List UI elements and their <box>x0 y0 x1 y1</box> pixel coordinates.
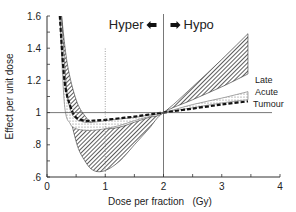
y-axis-label: Effect per unit dose <box>4 53 15 139</box>
band-late <box>62 16 248 172</box>
series-layer <box>60 16 248 172</box>
y-tick-label: 1 <box>35 107 41 118</box>
y-tick-label: .8 <box>33 139 42 150</box>
y-tick-label: .6 <box>33 172 42 183</box>
x-tick-label: 0 <box>44 181 50 192</box>
series-label-tumour: Tumour <box>253 99 284 109</box>
y-tick-label: 1.6 <box>27 11 41 22</box>
series-label-late: Late <box>255 75 273 85</box>
y-tick-label: 1.4 <box>27 43 41 54</box>
x-tick-label: 4 <box>277 181 283 192</box>
series-label-acute: Acute <box>255 87 278 97</box>
x-axis-label: Dose per fraction (Gy) <box>108 196 212 207</box>
y-tick-label: 1.2 <box>27 75 41 86</box>
chart: 01234.6.811.21.41.6 Dose per fraction (G… <box>0 0 296 212</box>
annotation-hyper: Hyper <box>109 17 144 32</box>
x-tick-label: 2 <box>161 181 167 192</box>
arrow-right-icon <box>171 21 181 29</box>
arrow-left-icon <box>147 21 157 29</box>
x-tick-label: 3 <box>219 181 225 192</box>
x-tick-label: 1 <box>102 181 108 192</box>
annotation-hypo: Hypo <box>184 17 214 32</box>
